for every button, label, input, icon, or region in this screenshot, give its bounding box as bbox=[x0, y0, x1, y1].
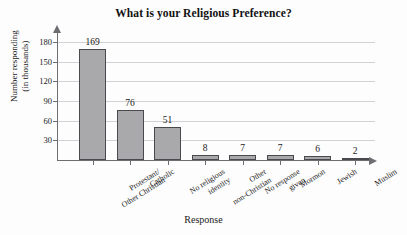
x-category-label-line: Muslim bbox=[373, 167, 399, 188]
x-tick-mark bbox=[130, 161, 131, 165]
bar bbox=[192, 155, 219, 160]
x-category-label: Jewish bbox=[335, 167, 359, 187]
bar-value-label: 7 bbox=[260, 143, 300, 153]
x-tick-mark bbox=[205, 161, 206, 165]
y-axis-arrow-icon bbox=[53, 25, 61, 33]
x-category-label: No religiousidentity bbox=[188, 167, 232, 204]
bar-value-label: 169 bbox=[73, 37, 113, 47]
bar bbox=[304, 156, 331, 160]
bar-value-label: 7 bbox=[223, 143, 263, 153]
bar bbox=[79, 49, 106, 160]
bar bbox=[342, 158, 369, 161]
x-axis-line bbox=[57, 160, 370, 161]
bar-value-label: 6 bbox=[298, 144, 338, 154]
y-tick-mark bbox=[53, 81, 58, 82]
bar-chart-figure: What is your Religious Preference? Numbe… bbox=[0, 0, 407, 235]
x-category-label: Muslim bbox=[373, 167, 399, 188]
x-tick-mark bbox=[168, 161, 169, 165]
bar-value-label: 2 bbox=[335, 146, 375, 156]
bar-value-label: 8 bbox=[185, 143, 225, 153]
y-tick-label: 30 bbox=[30, 136, 52, 145]
y-tick-mark bbox=[53, 62, 58, 63]
y-tick-label: 60 bbox=[30, 117, 52, 126]
bar bbox=[117, 110, 144, 160]
y-tick-mark bbox=[53, 101, 58, 102]
x-tick-mark bbox=[243, 161, 244, 165]
bar bbox=[154, 127, 181, 160]
bar-value-label: 51 bbox=[148, 115, 188, 125]
x-category-label: Mormon bbox=[298, 167, 327, 190]
y-axis-ticks: 306090120150180 bbox=[26, 0, 52, 235]
x-category-label: Protestant/Other Christian bbox=[114, 167, 166, 209]
bar-value-label: 76 bbox=[110, 98, 150, 108]
y-axis-title-line1: Number responding bbox=[9, 1, 20, 131]
x-tick-mark bbox=[355, 161, 356, 165]
x-tick-mark bbox=[280, 161, 281, 165]
bar bbox=[229, 155, 256, 160]
y-tick-label: 150 bbox=[30, 58, 52, 67]
x-tick-mark bbox=[318, 161, 319, 165]
x-axis-title: Response bbox=[0, 214, 407, 225]
x-category-label-line: Jewish bbox=[335, 167, 359, 187]
bar bbox=[267, 155, 294, 160]
x-category-label-line: Mormon bbox=[298, 167, 327, 190]
y-tick-label: 120 bbox=[30, 77, 52, 86]
y-tick-mark bbox=[53, 42, 58, 43]
y-tick-mark bbox=[53, 140, 58, 141]
y-tick-label: 90 bbox=[30, 97, 52, 106]
y-tick-mark bbox=[53, 121, 58, 122]
x-tick-mark bbox=[93, 161, 94, 165]
chart-title: What is your Religious Preference? bbox=[0, 7, 407, 19]
y-tick-label: 180 bbox=[30, 38, 52, 47]
